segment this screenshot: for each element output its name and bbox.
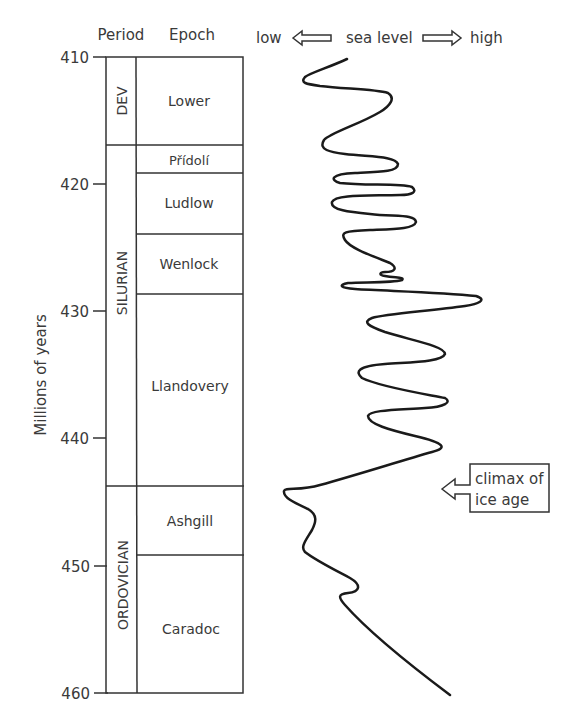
period-header: Period: [98, 26, 145, 44]
arrow-left-icon: [293, 31, 331, 45]
period-silurian: SILURIAN: [114, 251, 130, 315]
legend-high: high: [470, 29, 503, 47]
annotation-line-2: ice age: [475, 491, 529, 509]
tick-460: 460: [61, 685, 90, 703]
epoch-header: Epoch: [169, 26, 215, 44]
tick-440: 440: [60, 430, 89, 448]
ice-age-annotation: climax of ice age: [442, 464, 549, 512]
sea-level-curve: [284, 59, 481, 695]
epoch-pridoli: Přídolí: [169, 153, 209, 168]
epoch-wenlock: Wenlock: [160, 256, 220, 272]
tick-430: 430: [60, 303, 89, 321]
epoch-lower: Lower: [168, 93, 210, 109]
epoch-ludlow: Ludlow: [164, 195, 213, 211]
epoch-caradoc: Caradoc: [162, 621, 220, 637]
sea-level-diagram: Period Epoch low sea level high Millions…: [0, 0, 579, 728]
period-ordovician: ORDOVICIAN: [115, 540, 131, 630]
period-dev: DEV: [114, 86, 130, 116]
tick-420: 420: [60, 176, 89, 194]
arrow-right-icon: [423, 31, 461, 45]
tick-410: 410: [60, 49, 89, 67]
legend-sea-level: sea level: [346, 29, 413, 47]
legend-low: low: [256, 29, 282, 47]
epoch-ashgill: Ashgill: [167, 513, 213, 529]
y-axis-label: Millions of years: [32, 314, 50, 436]
epoch-llandovery: Llandovery: [151, 378, 229, 394]
annotation-line-1: climax of: [475, 470, 544, 488]
tick-450: 450: [61, 558, 90, 576]
